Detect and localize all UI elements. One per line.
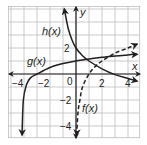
axes: [9, 7, 140, 138]
grid: [8, 6, 139, 137]
label-f: f(x): [82, 102, 98, 114]
curves: [22, 9, 137, 135]
tick-y-2: 2: [64, 43, 70, 54]
curve-h: [64, 9, 137, 81]
tick-x-4: 4: [125, 78, 131, 89]
label-g: g(x): [27, 55, 46, 67]
grid-border: [8, 6, 139, 137]
tick-x-neg2: −2: [38, 78, 50, 89]
function-graph: x y −4 −2 0 2 4 2 −2 −4 h(x) g(x) f(x): [0, 0, 147, 145]
tick-x-2: 2: [99, 78, 105, 89]
tick-y-neg4: −4: [60, 121, 72, 132]
label-h: h(x): [42, 25, 61, 37]
tick-y-neg2: −2: [60, 95, 72, 106]
graph-canvas: x y −4 −2 0 2 4 2 −2 −4 h(x) g(x) f(x): [0, 0, 147, 145]
x-axis-label: x: [131, 60, 138, 72]
tick-x-0: 0: [67, 76, 73, 87]
tick-x-neg4: −4: [12, 78, 24, 89]
y-axis-label: y: [79, 6, 87, 18]
